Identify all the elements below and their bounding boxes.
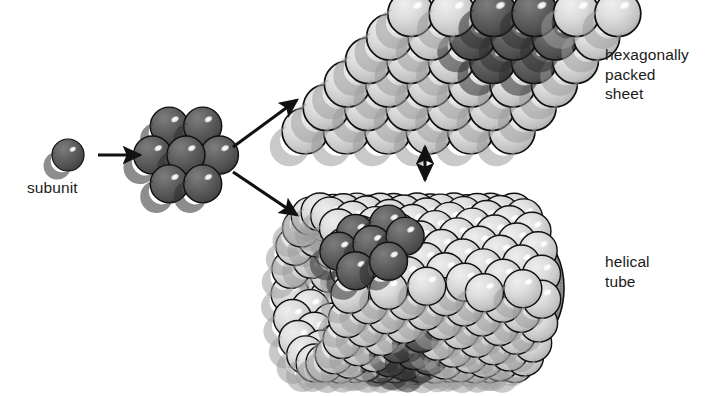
structure-helical-tube [261,193,564,393]
sheet-label-line-2: packed [605,66,656,83]
assembly-diagram-svg [0,0,708,396]
structure-cluster [123,107,238,213]
label-helical-tube: helicaltube [605,252,650,291]
tube-label-line-2: tube [605,273,636,290]
label-hexagonally-packed-sheet: hexagonallypackedsheet [605,45,689,104]
subunit-sphere-dark [44,139,84,179]
sheet-label-line-1: hexagonally [605,46,689,63]
label-subunit: subunit [27,178,78,198]
sheet-label-line-3: sheet [605,85,643,102]
arrow-cluster-to-tube [233,172,297,215]
tube-label-line-1: helical [605,253,650,270]
structure-hexagonal-sheet [270,0,641,166]
diagram-canvas: subunit hexagonallypackedsheet helicaltu… [0,0,708,396]
structure-subunit [44,139,84,179]
